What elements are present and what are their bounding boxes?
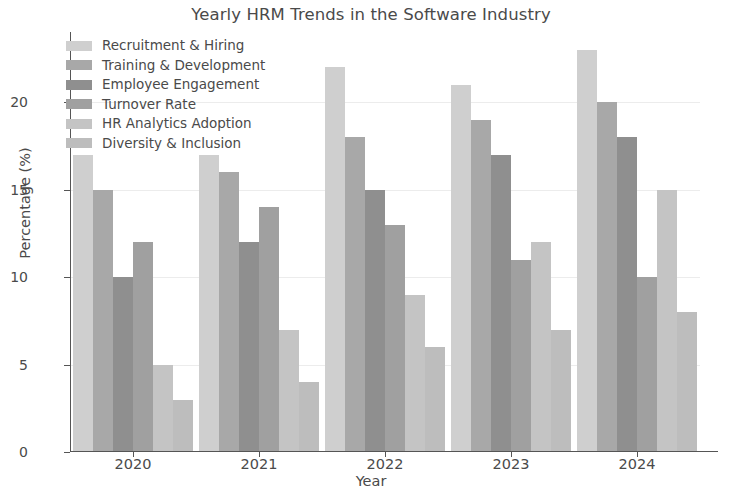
y-tick-mark xyxy=(64,452,70,453)
bar[interactable] xyxy=(345,137,365,452)
bar[interactable] xyxy=(551,330,571,453)
y-tick-label: 0 xyxy=(19,445,28,459)
bar[interactable] xyxy=(637,277,657,452)
legend-item[interactable]: Diversity & Inclusion xyxy=(66,134,265,154)
bar[interactable] xyxy=(617,137,637,452)
bar[interactable] xyxy=(491,155,511,453)
y-tick-label: 5 xyxy=(19,358,28,372)
bar[interactable] xyxy=(425,347,445,452)
legend-label: Diversity & Inclusion xyxy=(102,137,241,151)
legend-swatch-icon xyxy=(66,60,92,70)
legend-swatch-icon xyxy=(66,99,92,109)
bar[interactable] xyxy=(677,312,697,452)
legend-item[interactable]: Employee Engagement xyxy=(66,75,265,95)
bar[interactable] xyxy=(279,330,299,453)
bar[interactable] xyxy=(219,172,239,452)
bar[interactable] xyxy=(511,260,531,453)
bar[interactable] xyxy=(471,120,491,453)
legend-swatch-icon xyxy=(66,80,92,90)
legend-label: Recruitment & Hiring xyxy=(102,39,244,53)
bar[interactable] xyxy=(113,277,133,452)
bar-group-2022 xyxy=(325,32,445,452)
bar[interactable] xyxy=(577,50,597,453)
y-tick-mark xyxy=(64,277,70,278)
bar[interactable] xyxy=(133,242,153,452)
legend-swatch-icon xyxy=(66,119,92,129)
x-tick-label: 2021 xyxy=(199,456,319,472)
x-tick-label: 2023 xyxy=(451,456,571,472)
y-axis-label: Percentage (%) xyxy=(17,103,33,303)
x-tick-label: 2024 xyxy=(577,456,697,472)
legend-item[interactable]: Training & Development xyxy=(66,56,265,76)
chart-figure: Yearly HRM Trends in the Software Indust… xyxy=(0,0,742,490)
bar-group-2024 xyxy=(577,32,697,452)
bar[interactable] xyxy=(199,155,219,453)
bar[interactable] xyxy=(385,225,405,453)
y-tick-mark xyxy=(64,365,70,366)
legend-item[interactable]: Turnover Rate xyxy=(66,95,265,115)
bar[interactable] xyxy=(531,242,551,452)
legend-swatch-icon xyxy=(66,138,92,148)
x-tick-label: 2020 xyxy=(73,456,193,472)
legend-label: Turnover Rate xyxy=(102,98,196,112)
bar[interactable] xyxy=(657,190,677,453)
legend-swatch-icon xyxy=(66,41,92,51)
bar[interactable] xyxy=(173,400,193,453)
x-axis-label: Year xyxy=(0,473,742,489)
x-tick-label: 2022 xyxy=(325,456,445,472)
chart-legend: Recruitment & HiringTraining & Developme… xyxy=(66,36,265,153)
legend-item[interactable]: HR Analytics Adoption xyxy=(66,114,265,134)
bar[interactable] xyxy=(405,295,425,453)
bar[interactable] xyxy=(93,190,113,453)
legend-label: Training & Development xyxy=(102,59,265,73)
legend-item[interactable]: Recruitment & Hiring xyxy=(66,36,265,56)
x-axis-spine xyxy=(70,451,718,452)
bar[interactable] xyxy=(365,190,385,453)
chart-title: Yearly HRM Trends in the Software Indust… xyxy=(0,5,742,24)
legend-label: HR Analytics Adoption xyxy=(102,117,252,131)
bar[interactable] xyxy=(259,207,279,452)
bar[interactable] xyxy=(451,85,471,453)
bar[interactable] xyxy=(239,242,259,452)
bar[interactable] xyxy=(299,382,319,452)
bar[interactable] xyxy=(325,67,345,452)
y-tick-mark xyxy=(64,190,70,191)
bar[interactable] xyxy=(73,155,93,453)
legend-label: Employee Engagement xyxy=(102,78,259,92)
bar-group-2023 xyxy=(451,32,571,452)
bar[interactable] xyxy=(597,102,617,452)
bar[interactable] xyxy=(153,365,173,453)
